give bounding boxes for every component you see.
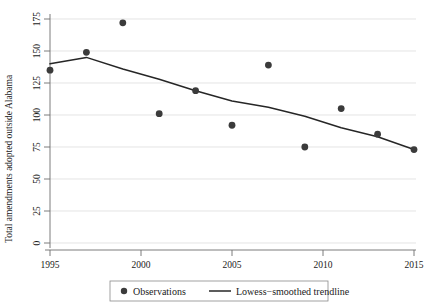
y-axis: 175 150 125 100 75 50 25 0 — [32, 12, 50, 248]
x-tick-label-2010: 2010 — [314, 260, 333, 270]
chart-legend: Observations Lowess−smoothed trendline — [110, 281, 350, 301]
lowess-trendline — [50, 57, 414, 149]
x-tick-label-2000: 2000 — [132, 260, 151, 270]
y-axis-title: Total amendments adopted outside Alabama — [4, 74, 14, 243]
gridlines — [50, 19, 416, 243]
data-point — [156, 110, 163, 117]
y-tick-label-175: 175 — [32, 12, 42, 27]
legend-observations-marker-icon — [121, 288, 127, 294]
data-point — [47, 67, 54, 74]
x-axis: 1995 2000 2005 2010 2015 — [41, 250, 424, 270]
y-tick-label-0: 0 — [32, 240, 42, 245]
data-point — [374, 131, 381, 138]
data-point — [192, 87, 199, 94]
legend-trendline-label: Lowess−smoothed trendline — [236, 286, 350, 297]
x-tick-label-1995: 1995 — [41, 260, 60, 270]
data-point — [229, 122, 236, 129]
data-point — [265, 62, 272, 69]
y-tick-label-100: 100 — [32, 108, 42, 123]
chart-container: Total amendments adopted outside Alabama… — [0, 0, 430, 306]
y-tick-label-25: 25 — [32, 206, 42, 216]
data-point — [411, 146, 418, 153]
x-tick-label-2015: 2015 — [405, 260, 424, 270]
y-tick-label-125: 125 — [32, 76, 42, 91]
y-tick-label-75: 75 — [32, 142, 42, 152]
data-point — [301, 144, 308, 151]
y-tick-label-50: 50 — [32, 174, 42, 184]
data-point — [338, 105, 345, 112]
scatter-plot-figure: Total amendments adopted outside Alabama… — [0, 0, 430, 306]
data-point — [119, 19, 126, 26]
y-tick-label-150: 150 — [32, 44, 42, 59]
data-point — [83, 49, 90, 56]
legend-observations-label: Observations — [133, 286, 186, 297]
x-tick-label-2005: 2005 — [223, 260, 242, 270]
